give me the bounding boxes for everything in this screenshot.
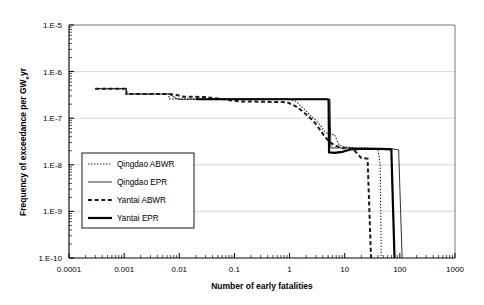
chart-legend: Qingdao ABWRQingdao EPRYantai ABWRYantai… <box>82 153 194 228</box>
legend-label-yantai-epr: Yantai EPR <box>117 214 159 223</box>
y-tick-label: 1.E-6 <box>43 68 63 77</box>
exceedance-frequency-chart: 1.E-51.E-61.E-71.E-81.E-91.E-10 0.00010.… <box>0 0 484 305</box>
y-tick-label: 1.E-9 <box>43 207 63 216</box>
legend-label-yantai-abwr: Yantai ABWR <box>117 196 166 205</box>
x-tick-label: 1000 <box>446 265 464 274</box>
x-tick-label: 0.01 <box>171 265 187 274</box>
y-tick-label: 1.E-10 <box>38 254 62 263</box>
y-axis-title: Frequency of exceedance per GWeyr <box>18 67 30 216</box>
x-tick-label: 0.1 <box>229 265 241 274</box>
chart-figure: 1.E-51.E-61.E-71.E-81.E-91.E-10 0.00010.… <box>0 0 484 305</box>
legend-label-qingdao-epr: Qingdao EPR <box>117 178 167 187</box>
x-tick-label: 100 <box>393 265 407 274</box>
x-tick-label: 0.0001 <box>57 265 82 274</box>
y-tick-label: 1.E-8 <box>43 161 63 170</box>
legend-label-qingdao-abwr: Qingdao ABWR <box>117 160 174 169</box>
x-tick-label: 0.001 <box>114 265 135 274</box>
y-tick-label: 1.E-5 <box>43 21 63 30</box>
x-axis-title: Number of early fatalities <box>211 281 313 291</box>
x-tick-label: 1 <box>287 265 292 274</box>
y-tick-label: 1.E-7 <box>43 114 63 123</box>
x-tick-label: 10 <box>340 265 349 274</box>
chart-background <box>0 0 484 305</box>
